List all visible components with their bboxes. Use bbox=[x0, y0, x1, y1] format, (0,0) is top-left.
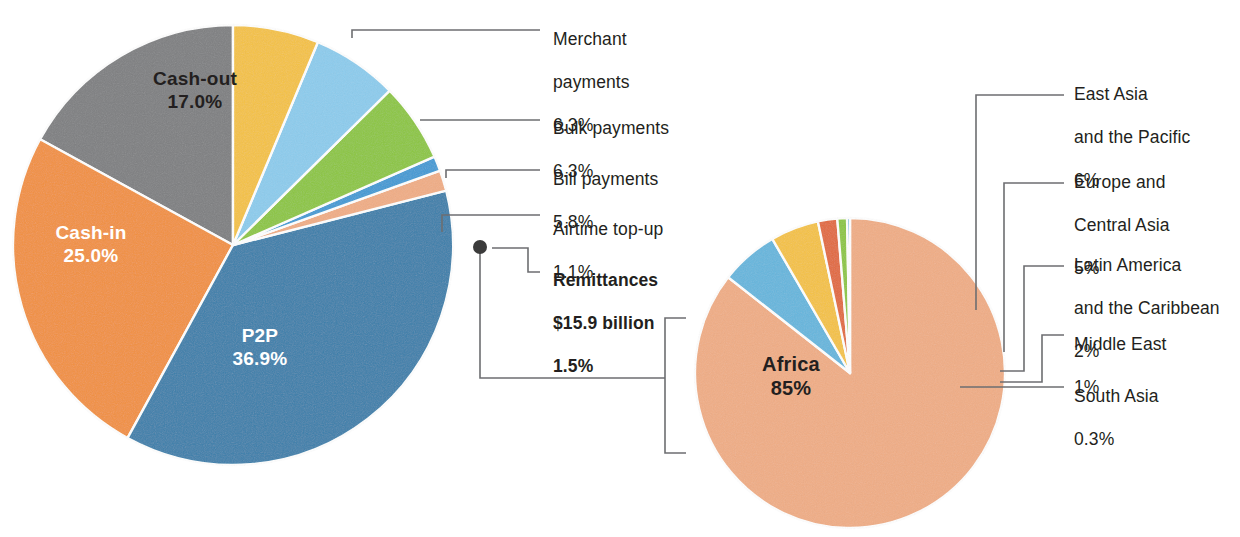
callout-remittances-value: 1.5% bbox=[553, 356, 658, 377]
connector-bill-payments bbox=[446, 170, 540, 178]
pie-chart-figure: Cash-out 17.0% Cash-in 25.0% P2P 36.9% M… bbox=[0, 0, 1240, 537]
callout-south-asia: South Asia 0.3% bbox=[1074, 365, 1159, 472]
right-pie-label-africa: Africa 85% bbox=[716, 352, 866, 400]
callout-east-asia-pacific-line2: and the Pacific bbox=[1074, 127, 1190, 148]
left-pie-label-cash-out: Cash-out 17.0% bbox=[100, 68, 290, 114]
callout-remittances-line2: $15.9 billion bbox=[553, 313, 658, 334]
callout-merchant-payments-line1: Merchant bbox=[553, 29, 630, 50]
callout-south-asia-line1: South Asia bbox=[1074, 386, 1159, 407]
connector-latin-america-caribbean bbox=[1000, 266, 1064, 371]
left-pie-label-p2p-name: P2P bbox=[180, 325, 340, 348]
connector-airtime-top-up bbox=[442, 215, 540, 232]
left-pie-label-p2p: P2P 36.9% bbox=[180, 325, 340, 371]
right-pie-label-africa-value: 85% bbox=[716, 376, 866, 400]
connector-middle-east bbox=[1000, 335, 1064, 382]
callout-east-asia-pacific-line1: East Asia bbox=[1074, 84, 1190, 105]
left-pie-label-cash-in-name: Cash-in bbox=[16, 222, 166, 245]
callout-remittances-line1: Remittances bbox=[553, 270, 658, 291]
callout-latin-america-caribbean-line1: Latin America bbox=[1074, 255, 1220, 276]
callout-south-asia-value: 0.3% bbox=[1074, 429, 1159, 450]
callout-bill-payments-line1: Bill payments bbox=[553, 169, 658, 190]
connector-europe-central-asia bbox=[1004, 183, 1064, 352]
left-pie-label-cash-in: Cash-in 25.0% bbox=[16, 222, 166, 268]
right-pie-label-africa-name: Africa bbox=[716, 352, 866, 376]
callout-merchant-payments-line2: payments bbox=[553, 72, 630, 93]
connector-merchant-payments bbox=[352, 30, 540, 38]
callout-airtime-top-up-line1: Airtime top-up bbox=[553, 219, 663, 240]
left-pie-label-cash-out-value: 17.0% bbox=[100, 91, 290, 114]
connector-remittances bbox=[492, 248, 540, 272]
left-pie-label-p2p-value: 36.9% bbox=[180, 348, 340, 371]
callout-europe-central-asia-line1: Europe and bbox=[1074, 172, 1170, 193]
left-pie-label-cash-out-name: Cash-out bbox=[100, 68, 290, 91]
region-pie-bracket bbox=[665, 318, 686, 453]
remittances-marker-dot bbox=[473, 240, 487, 254]
callout-middle-east-line1: Middle East bbox=[1074, 334, 1167, 355]
callout-bulk-payments-line1: Bulk payments bbox=[553, 118, 669, 139]
left-pie-label-cash-in-value: 25.0% bbox=[16, 245, 166, 268]
callout-remittances: Remittances $15.9 billion 1.5% bbox=[553, 249, 658, 398]
connector-east-asia-pacific bbox=[976, 95, 1064, 310]
